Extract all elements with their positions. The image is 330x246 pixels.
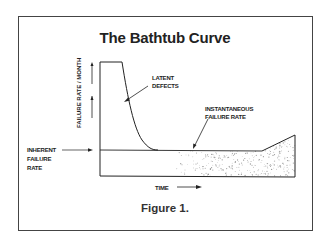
stipple-dot xyxy=(238,161,239,162)
stipple-dot xyxy=(268,156,269,157)
stipple-dot xyxy=(277,165,278,166)
stipple-dot xyxy=(282,146,283,147)
stipple-dot xyxy=(277,157,278,158)
stipple-dot xyxy=(232,165,233,166)
stipple-dot xyxy=(243,159,244,160)
stipple-dot xyxy=(284,158,285,159)
stipple-dot xyxy=(202,166,203,167)
stipple-dot xyxy=(284,141,285,142)
stipple-dot xyxy=(264,172,265,173)
stipple-dot xyxy=(228,157,229,158)
stipple-dot xyxy=(239,164,240,165)
stipple-dot xyxy=(283,142,284,143)
stipple-dot xyxy=(264,173,265,174)
stipple-dot xyxy=(267,168,268,169)
latent-defects-label-line1: LATENT xyxy=(152,74,179,82)
stipple-dot xyxy=(212,165,213,166)
stipple-dot xyxy=(218,160,219,161)
stipple-dot xyxy=(232,168,233,169)
stipple-dot xyxy=(200,169,201,170)
stipple-dot xyxy=(188,154,189,155)
stipple-dot xyxy=(247,152,248,153)
stipple-dot xyxy=(193,161,194,162)
stipple-dot xyxy=(276,169,277,170)
stipple-dot xyxy=(293,163,294,164)
stipple-dot xyxy=(216,166,217,167)
stipple-dot xyxy=(268,173,269,174)
stipple-dot xyxy=(226,175,227,176)
stipple-dot xyxy=(274,175,275,176)
stipple-dot xyxy=(270,151,271,152)
stipple-dot xyxy=(248,162,249,163)
stipple-dot xyxy=(279,159,280,160)
stipple-dot xyxy=(290,157,291,158)
stipple-dot xyxy=(286,165,287,166)
stipple-dot xyxy=(219,155,220,156)
stipple-dot xyxy=(255,165,256,166)
stipple-dot xyxy=(238,174,239,175)
stipple-dot xyxy=(273,163,274,164)
stipple-dot xyxy=(265,173,266,174)
stipple-dot xyxy=(288,160,289,161)
stipple-dot xyxy=(181,172,182,173)
stipple-dot xyxy=(254,171,255,172)
stipple-dot xyxy=(229,167,230,168)
stipple-dot xyxy=(274,154,275,155)
stipple-dot xyxy=(258,169,259,170)
stipple-dot xyxy=(206,173,207,174)
stipple-dot xyxy=(226,155,227,156)
stipple-dot xyxy=(280,175,281,176)
stipple-dot xyxy=(286,174,287,175)
stipple-dot xyxy=(292,155,293,156)
bottom-edge xyxy=(100,176,295,177)
stipple-dot xyxy=(184,172,185,173)
stipple-dot xyxy=(250,170,251,171)
stipple-dot xyxy=(251,165,252,166)
stipple-dot xyxy=(258,170,259,171)
stipple-dot xyxy=(274,160,275,161)
stipple-dot xyxy=(266,171,267,172)
stipple-dot xyxy=(293,155,294,156)
stipple-dot xyxy=(226,168,227,169)
stipple-dot xyxy=(270,173,271,174)
stipple-dot xyxy=(212,170,213,171)
stipple-dot xyxy=(292,169,293,170)
stipple-dot xyxy=(193,164,194,165)
stipple-dot xyxy=(280,166,281,167)
stipple-dot xyxy=(232,169,233,170)
stipple-dot xyxy=(222,159,223,160)
stipple-dot xyxy=(267,167,268,168)
stipple-dot xyxy=(242,156,243,157)
stipple-dot xyxy=(253,159,254,160)
inherent-label-line3: RATE xyxy=(27,164,56,173)
latent-pointer-line xyxy=(127,86,148,100)
stipple-dot xyxy=(235,171,236,172)
stipple-dot xyxy=(269,154,270,155)
stipple-dot xyxy=(251,161,252,162)
stipple-dot xyxy=(207,156,208,157)
stipple-dot xyxy=(279,151,280,152)
stipple-dot xyxy=(232,163,233,164)
stipple-dot xyxy=(293,170,294,171)
stipple-dot xyxy=(287,160,288,161)
time-arrow-head xyxy=(196,185,202,189)
instantaneous-label-line1: INSTANTANEOUS xyxy=(205,105,253,113)
stipple-dot xyxy=(233,155,234,156)
stipple-dot xyxy=(226,173,227,174)
stipple-dot xyxy=(241,173,242,174)
stipple-dot xyxy=(262,160,263,161)
stipple-dot xyxy=(223,157,224,158)
stipple-dot xyxy=(220,158,221,159)
stipple-dot xyxy=(260,155,261,156)
stipple-dot xyxy=(219,165,220,166)
stipple-dot xyxy=(288,151,289,152)
stipple-dot xyxy=(179,152,180,153)
stipple-dot xyxy=(290,146,291,147)
stipple-dot xyxy=(292,147,293,148)
stipple-dot xyxy=(261,173,262,174)
y-arrow-upper-head xyxy=(91,62,94,66)
inherent-label-line2: FAILURE xyxy=(27,155,56,164)
stipple-dot xyxy=(188,155,189,156)
stipple-dot xyxy=(219,170,220,171)
stipple-dot xyxy=(276,148,277,149)
